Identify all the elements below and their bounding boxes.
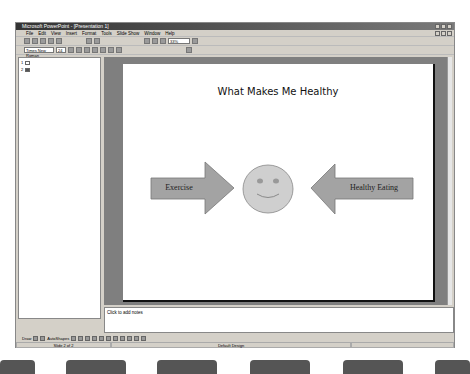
paste-icon[interactable] xyxy=(86,38,92,44)
bold-icon[interactable] xyxy=(68,47,74,53)
open-icon[interactable] xyxy=(32,38,38,44)
shadow-icon[interactable] xyxy=(92,47,98,53)
menu-window[interactable]: Window xyxy=(144,30,160,36)
exercise-label: Exercise xyxy=(151,183,207,192)
shadow-style-icon[interactable] xyxy=(134,336,139,341)
drawing-toolbar: Draw AutoShapes xyxy=(18,335,454,341)
taskbar-button[interactable] xyxy=(0,360,35,374)
underline-icon[interactable] xyxy=(84,47,90,53)
help-icon[interactable] xyxy=(192,38,198,44)
taskbar-button[interactable] xyxy=(250,360,310,374)
vertical-scrollbar[interactable] xyxy=(447,57,452,305)
new-icon[interactable] xyxy=(24,38,30,44)
slide-editor: What Makes Me Healthy Exercise Healthy E… xyxy=(104,57,449,305)
taskbar-button[interactable] xyxy=(343,360,403,374)
menu-format[interactable]: Format xyxy=(82,30,96,36)
format-painter-icon[interactable] xyxy=(94,38,100,44)
doc-close-button[interactable] xyxy=(447,31,452,36)
taskbar-button[interactable] xyxy=(66,360,126,374)
menu-view[interactable]: View xyxy=(51,30,61,36)
zoom-select[interactable]: 33% xyxy=(168,38,190,44)
line-icon[interactable] xyxy=(71,336,76,341)
outline-pane[interactable]: 1 2 xyxy=(18,57,101,319)
status-design: Default Design xyxy=(111,342,351,348)
powerpoint-window: Microsoft PowerPoint - [Presentation 1] … xyxy=(15,22,455,348)
fill-color-icon[interactable] xyxy=(113,336,118,341)
status-slide-count: Slide 2 of 2 xyxy=(16,342,111,348)
font-size-select[interactable]: 24 xyxy=(56,47,66,53)
title-bar: Microsoft PowerPoint - [Presentation 1] xyxy=(16,23,454,30)
menu-file[interactable]: File xyxy=(26,30,33,36)
rectangle-icon[interactable] xyxy=(85,336,90,341)
draw-menu[interactable]: Draw xyxy=(22,336,31,341)
left-eye xyxy=(257,179,263,184)
window-title: Microsoft PowerPoint - [Presentation 1] xyxy=(22,23,109,29)
smiley-face-shape[interactable] xyxy=(243,165,293,213)
font-color-icon[interactable] xyxy=(127,336,132,341)
maximize-button[interactable] xyxy=(441,24,446,29)
healthy-eating-label: Healthy Eating xyxy=(333,183,415,192)
line-color-icon[interactable] xyxy=(120,336,125,341)
align-right-icon[interactable] xyxy=(116,47,122,53)
rotate-icon[interactable] xyxy=(40,336,45,341)
menu-insert[interactable]: Insert xyxy=(66,30,77,36)
spelling-icon[interactable] xyxy=(56,38,62,44)
spell-check-icon xyxy=(351,342,454,348)
print-icon[interactable] xyxy=(48,38,54,44)
oval-icon[interactable] xyxy=(92,336,97,341)
outline-slide-1[interactable]: 1 xyxy=(21,60,98,65)
status-bar: Slide 2 of 2 Default Design xyxy=(16,342,454,348)
notes-placeholder: Click to add notes xyxy=(107,310,143,315)
menu-tools[interactable]: Tools xyxy=(101,30,112,36)
common-tasks-icon[interactable] xyxy=(186,47,192,53)
align-left-icon[interactable] xyxy=(100,47,106,53)
right-eye xyxy=(273,179,279,184)
align-center-icon[interactable] xyxy=(108,47,114,53)
slide-icon xyxy=(25,61,30,65)
textbox-icon[interactable] xyxy=(99,336,104,341)
insert-chart-icon[interactable] xyxy=(144,38,150,44)
select-icon[interactable] xyxy=(33,336,38,341)
menu-slide-show[interactable]: Slide Show xyxy=(117,30,140,36)
slide-icon xyxy=(25,68,30,72)
arrow-icon[interactable] xyxy=(78,336,83,341)
doc-minimize-button[interactable] xyxy=(435,31,440,36)
save-icon[interactable] xyxy=(40,38,46,44)
autoshapes-menu[interactable]: AutoShapes xyxy=(47,336,69,341)
insert-table-icon[interactable] xyxy=(152,38,158,44)
menu-bar: File Edit View Insert Format Tools Slide… xyxy=(16,30,454,37)
minimize-button[interactable] xyxy=(435,24,440,29)
close-button[interactable] xyxy=(447,24,452,29)
menu-edit[interactable]: Edit xyxy=(38,30,46,36)
standard-toolbar: 33% xyxy=(16,37,454,46)
formatting-toolbar: Times New Roman 24 xyxy=(16,46,454,55)
italic-icon[interactable] xyxy=(76,47,82,53)
notes-pane[interactable]: Click to add notes xyxy=(104,307,454,333)
slide-canvas[interactable]: What Makes Me Healthy Exercise Healthy E… xyxy=(123,64,435,302)
taskbar-button[interactable] xyxy=(157,360,217,374)
taskbar-button[interactable] xyxy=(435,360,470,374)
outline-slide-2[interactable]: 2 xyxy=(21,67,98,72)
insert-clipart-icon[interactable] xyxy=(160,38,166,44)
3d-icon[interactable] xyxy=(141,336,146,341)
wordart-icon[interactable] xyxy=(106,336,111,341)
doc-restore-button[interactable] xyxy=(441,31,446,36)
menu-help[interactable]: Help xyxy=(165,30,174,36)
font-select[interactable]: Times New Roman xyxy=(24,47,54,53)
